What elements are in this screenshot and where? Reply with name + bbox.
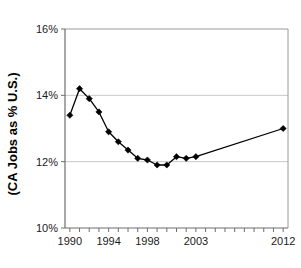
line-chart: 16%14%12%10% 19901994199820032012 (CA Jo…: [0, 0, 301, 268]
chart-container: 16%14%12%10% 19901994199820032012 (CA Jo…: [0, 0, 301, 268]
y-tick-label: 16%: [36, 23, 58, 35]
y-axis-title: (CA Jobs as % U.S.): [5, 72, 20, 195]
x-tick-label: 1994: [96, 235, 120, 247]
x-tick-label: 1998: [135, 235, 159, 247]
x-tick-label: 2003: [184, 235, 208, 247]
y-tick-label: 12%: [36, 156, 58, 168]
y-tick-label: 10%: [36, 222, 58, 234]
x-tick-label: 2012: [271, 235, 295, 247]
y-tick-label: 14%: [36, 89, 58, 101]
x-tick-label: 1990: [58, 235, 82, 247]
